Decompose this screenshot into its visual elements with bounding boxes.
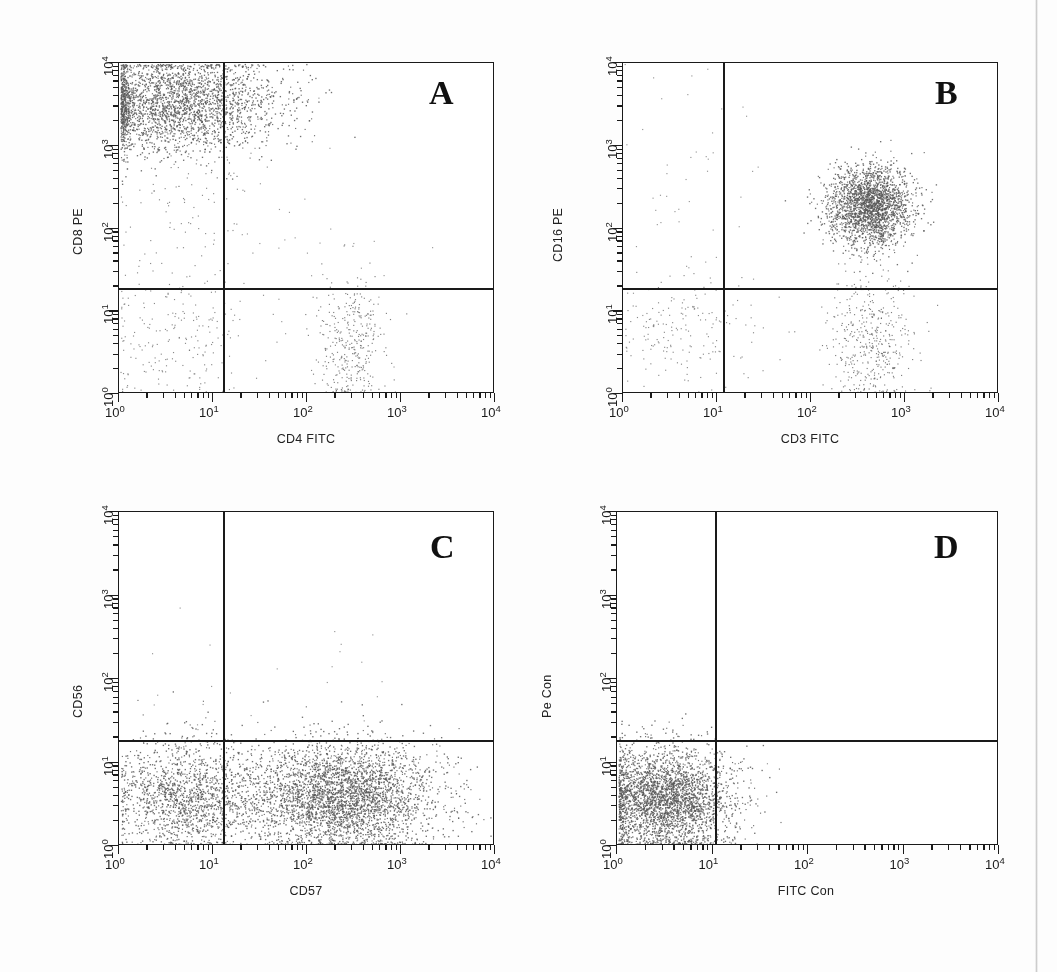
x-tick (782, 393, 783, 398)
x-tick (163, 393, 164, 398)
y-tick (113, 638, 118, 639)
y-tick (611, 736, 616, 737)
y-tick (617, 260, 622, 261)
y-tick (617, 271, 622, 272)
y-tick (611, 530, 616, 531)
y-tick (113, 805, 118, 806)
x-tick-label: 104 (985, 858, 1005, 871)
x-tick (240, 393, 241, 398)
y-tick (611, 787, 616, 788)
y-tick (617, 203, 622, 204)
x-tick (876, 393, 877, 398)
x-tick (203, 393, 204, 398)
x-tick (744, 393, 745, 398)
y-tick (113, 203, 118, 204)
y-tick (617, 246, 622, 247)
x-tick (983, 845, 984, 850)
y-tick (113, 260, 118, 261)
x-tick (898, 845, 899, 850)
x-tick (372, 845, 373, 850)
y-tick (617, 188, 622, 189)
x-tick (372, 393, 373, 398)
x-tick (146, 393, 147, 398)
x-tick (998, 845, 999, 854)
x-tick (932, 393, 933, 398)
y-tick (113, 368, 118, 369)
x-tick (994, 393, 995, 398)
y-tick (113, 736, 118, 737)
x-tick (769, 845, 770, 850)
y-tick (611, 703, 616, 704)
x-tick (983, 393, 984, 398)
y-tick (617, 95, 622, 96)
x-tick (291, 393, 292, 398)
x-tick (662, 845, 663, 850)
x-tick (208, 845, 209, 850)
y-tick (611, 820, 616, 821)
x-tick (391, 393, 392, 398)
x-tick (257, 393, 258, 398)
x-tick (212, 845, 213, 854)
y-tick (113, 343, 118, 344)
x-tick (836, 845, 837, 850)
y-tick-label: 100 (102, 387, 115, 407)
x-tick (306, 393, 307, 402)
x-tick (479, 845, 480, 850)
y-tick (617, 368, 622, 369)
x-tick (391, 845, 392, 850)
y-tick-label: 102 (102, 222, 115, 242)
x-tick (683, 845, 684, 850)
x-tick (893, 845, 894, 850)
y-tick (611, 795, 616, 796)
y-tick (611, 780, 616, 781)
x-tick (789, 393, 790, 398)
y-tick-label: 100 (606, 387, 619, 407)
y-tick (611, 711, 616, 712)
x-tick-label: 102 (794, 858, 814, 871)
x-tick (989, 845, 990, 850)
x-tick (191, 393, 192, 398)
x-tick (428, 845, 429, 850)
x-tick (977, 845, 978, 850)
x-tick (888, 845, 889, 850)
y-tick (113, 354, 118, 355)
y-tick (113, 163, 118, 164)
x-axis-label-c: CD57 (206, 884, 406, 898)
x-tick (697, 845, 698, 850)
x-tick (457, 393, 458, 398)
y-tick (113, 544, 118, 545)
y-tick (113, 170, 118, 171)
x-axis-label-a: CD4 FITC (206, 432, 406, 446)
x-tick-label: 101 (199, 406, 219, 419)
x-tick (881, 845, 882, 850)
y-tick (113, 703, 118, 704)
x-tick (773, 393, 774, 398)
y-tick (617, 87, 622, 88)
y-tick (113, 628, 118, 629)
x-tick (379, 845, 380, 850)
x-tick (466, 845, 467, 850)
x-tick (810, 393, 811, 402)
x-tick (494, 393, 495, 402)
x-tick (969, 845, 970, 850)
x-tick (400, 393, 401, 402)
x-tick (895, 393, 896, 398)
y-tick-label: 102 (600, 672, 613, 692)
x-tick (786, 845, 787, 850)
x-tick-label: 100 (105, 406, 125, 419)
x-tick (761, 393, 762, 398)
x-tick (118, 393, 119, 402)
y-tick-label: 101 (600, 756, 613, 776)
x-tick-label: 101 (699, 858, 719, 871)
x-tick (702, 845, 703, 850)
y-tick (611, 628, 616, 629)
x-tick (989, 393, 990, 398)
x-tick (970, 393, 971, 398)
x-tick-label: 102 (797, 406, 817, 419)
x-tick (191, 845, 192, 850)
x-tick (385, 845, 386, 850)
y-tick-label: 102 (606, 222, 619, 242)
x-tick-label: 102 (293, 858, 313, 871)
x-tick (650, 393, 651, 398)
x-tick (479, 393, 480, 398)
